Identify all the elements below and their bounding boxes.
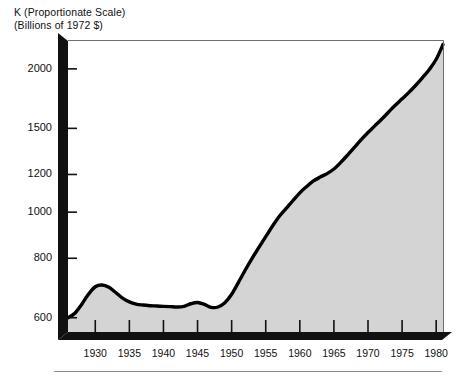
value-axis-label: 1500 <box>8 121 52 133</box>
value-axis-label: 2000 <box>8 62 52 74</box>
year-axis-bar <box>58 332 452 340</box>
value-axis-label: 800 <box>8 251 52 263</box>
footer-divider <box>54 371 442 372</box>
value-axis-bar <box>58 33 68 340</box>
area-fill <box>68 45 443 332</box>
value-axis-label: 1000 <box>8 205 52 217</box>
chart-figure: K (Proportionate Scale) (Billions of 197… <box>0 0 464 384</box>
value-axis-ticks <box>68 69 77 318</box>
value-axis-label: 1200 <box>8 167 52 179</box>
plot-canvas <box>0 0 464 384</box>
value-axis-label: 600 <box>8 311 52 323</box>
year-axis-label: 1980 <box>416 347 456 359</box>
